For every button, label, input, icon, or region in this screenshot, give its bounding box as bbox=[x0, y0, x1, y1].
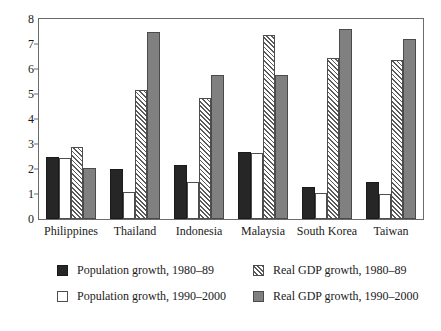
legend-item-gdp90[interactable]: Real GDP growth, 1990–2000 bbox=[253, 290, 419, 303]
bar-group bbox=[167, 19, 231, 219]
bar-pop80 bbox=[46, 157, 58, 220]
y-tick-label: 3 bbox=[0, 138, 34, 150]
x-axis-label-philippines: Philippines bbox=[44, 224, 98, 238]
bar-pop80 bbox=[110, 169, 122, 219]
x-axis-label-indonesia: Indonesia bbox=[176, 224, 223, 238]
bar-pop90 bbox=[187, 182, 199, 220]
bar-pop80 bbox=[174, 165, 186, 219]
y-tick-label: 1 bbox=[0, 188, 34, 200]
y-tick-label: 0 bbox=[0, 213, 34, 225]
bar-group bbox=[359, 19, 423, 219]
bar-chart-figure: 012345678 PhilippinesThailandIndonesiaMa… bbox=[0, 0, 441, 331]
legend-swatch-gdp90-icon bbox=[253, 291, 264, 302]
x-axis-label-thailand: Thailand bbox=[114, 224, 157, 238]
bar-pop80 bbox=[302, 187, 314, 220]
y-tick-label: 7 bbox=[0, 38, 34, 50]
bar-group bbox=[103, 19, 167, 219]
legend-label: Real GDP growth, 1980–89 bbox=[273, 264, 407, 277]
bar-pop90 bbox=[379, 194, 391, 219]
bar-gdp80 bbox=[71, 147, 83, 220]
bar-gdp90 bbox=[403, 39, 415, 219]
y-tick-label: 2 bbox=[0, 163, 34, 175]
bar-gdp80 bbox=[391, 60, 403, 219]
legend-item-pop90[interactable]: Population growth, 1990–2000 bbox=[57, 290, 226, 303]
y-tick-label: 8 bbox=[0, 13, 34, 25]
legend-item-gdp80[interactable]: Real GDP growth, 1980–89 bbox=[253, 264, 407, 277]
x-axis-label-taiwan: Taiwan bbox=[373, 224, 408, 238]
legend-label: Population growth, 1990–2000 bbox=[77, 290, 226, 303]
bar-group bbox=[231, 19, 295, 219]
legend-item-pop80[interactable]: Population growth, 1980–89 bbox=[57, 264, 214, 277]
bar-pop80 bbox=[366, 182, 378, 220]
bar-group bbox=[295, 19, 359, 219]
bar-gdp90 bbox=[275, 75, 287, 219]
bar-gdp90 bbox=[147, 32, 159, 220]
chart-legend: Population growth, 1980–89Real GDP growt… bbox=[57, 262, 429, 310]
legend-label: Population growth, 1980–89 bbox=[77, 264, 214, 277]
bar-gdp80 bbox=[327, 58, 339, 219]
x-axis-category-labels: PhilippinesThailandIndonesiaMalaysiaSout… bbox=[39, 224, 423, 242]
plot-area bbox=[38, 18, 424, 220]
bars-layer bbox=[39, 19, 423, 219]
legend-label: Real GDP growth, 1990–2000 bbox=[273, 290, 419, 303]
bar-gdp90 bbox=[339, 29, 351, 219]
bar-gdp80 bbox=[263, 35, 275, 219]
bar-gdp80 bbox=[199, 98, 211, 219]
y-tick-label: 6 bbox=[0, 63, 34, 75]
bar-pop90 bbox=[123, 192, 135, 220]
y-axis-tick-labels: 012345678 bbox=[0, 18, 34, 220]
legend-swatch-pop80-icon bbox=[57, 265, 68, 276]
x-axis-label-south-korea: South Korea bbox=[297, 224, 357, 238]
legend-swatch-pop90-icon bbox=[57, 291, 68, 302]
bar-gdp90 bbox=[83, 168, 95, 219]
bar-pop90 bbox=[251, 153, 263, 219]
legend-swatch-gdp80-icon bbox=[253, 265, 264, 276]
bar-pop80 bbox=[238, 152, 250, 220]
bar-gdp90 bbox=[211, 75, 223, 219]
x-axis-label-malaysia: Malaysia bbox=[241, 224, 285, 238]
bar-pop90 bbox=[59, 158, 71, 219]
bar-group bbox=[39, 19, 103, 219]
y-tick-label: 5 bbox=[0, 88, 34, 100]
bar-pop90 bbox=[315, 193, 327, 219]
bar-gdp80 bbox=[135, 90, 147, 219]
y-tick-label: 4 bbox=[0, 113, 34, 125]
